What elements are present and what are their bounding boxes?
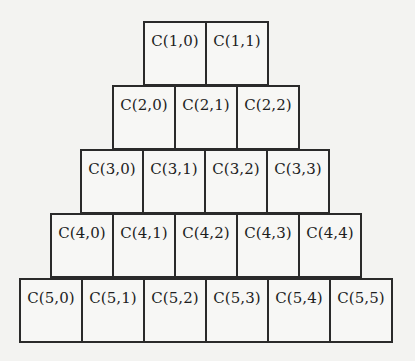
cell-label: C(4,2)	[182, 224, 230, 242]
cell-label: C(3,0)	[88, 160, 136, 178]
cell-label: C(3,3)	[274, 160, 322, 178]
cell-c-5-4: C(5,4)	[267, 278, 331, 343]
cell-c-5-1: C(5,1)	[81, 278, 145, 343]
cell-label: C(2,1)	[182, 96, 230, 114]
cell-c-2-2: C(2,2)	[236, 85, 300, 150]
cell-c-3-1: C(3,1)	[142, 149, 206, 214]
cell-c-4-4: C(4,4)	[298, 213, 362, 278]
cell-label: C(5,4)	[275, 289, 323, 307]
cell-label: C(2,0)	[120, 96, 168, 114]
cell-label: C(4,1)	[120, 224, 168, 242]
cell-label: C(5,0)	[27, 289, 75, 307]
cell-label: C(5,1)	[89, 289, 137, 307]
cell-c-1-1: C(1,1)	[205, 21, 269, 86]
cell-label: C(1,0)	[151, 32, 199, 50]
cell-c-4-1: C(4,1)	[112, 213, 176, 278]
cell-c-5-3: C(5,3)	[205, 278, 269, 343]
cell-label: C(1,1)	[213, 32, 261, 50]
cell-label: C(3,2)	[212, 160, 260, 178]
cell-c-5-5: C(5,5)	[329, 278, 393, 343]
row-n4: C(4,0) C(4,1) C(4,2) C(4,3) C(4,4)	[50, 213, 362, 278]
cell-label: C(5,2)	[151, 289, 199, 307]
cell-c-4-3: C(4,3)	[236, 213, 300, 278]
cell-c-5-2: C(5,2)	[143, 278, 207, 343]
cell-c-2-0: C(2,0)	[112, 85, 176, 150]
cell-label: C(3,1)	[150, 160, 198, 178]
cell-c-2-1: C(2,1)	[174, 85, 238, 150]
row-n1: C(1,0) C(1,1)	[143, 21, 269, 86]
cell-label: C(4,4)	[306, 224, 354, 242]
cell-c-3-3: C(3,3)	[266, 149, 330, 214]
cell-label: C(5,5)	[337, 289, 385, 307]
cell-label: C(5,3)	[213, 289, 261, 307]
cell-c-3-0: C(3,0)	[80, 149, 144, 214]
cell-label: C(2,2)	[244, 96, 292, 114]
cell-c-3-2: C(3,2)	[204, 149, 268, 214]
cell-c-4-0: C(4,0)	[50, 213, 114, 278]
cell-c-1-0: C(1,0)	[143, 21, 207, 86]
cell-label: C(4,0)	[58, 224, 106, 242]
row-n2: C(2,0) C(2,1) C(2,2)	[112, 85, 300, 150]
row-n5: C(5,0) C(5,1) C(5,2) C(5,3) C(5,4) C(5,5…	[19, 278, 393, 343]
cell-label: C(4,3)	[244, 224, 292, 242]
pascal-triangle-diagram: C(1,0) C(1,1) C(2,0) C(2,1) C(2,2) C(3,0…	[0, 0, 415, 361]
row-n3: C(3,0) C(3,1) C(3,2) C(3,3)	[80, 149, 330, 214]
cell-c-5-0: C(5,0)	[19, 278, 83, 343]
cell-c-4-2: C(4,2)	[174, 213, 238, 278]
